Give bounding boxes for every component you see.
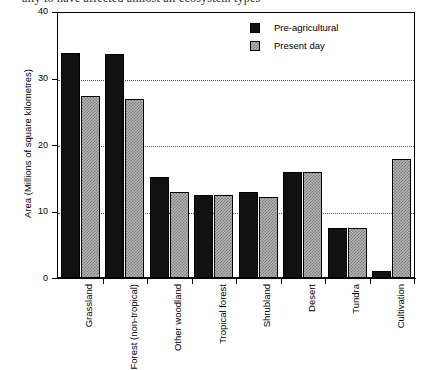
bar-other-woodland-pre-agricultural <box>150 177 169 278</box>
bar-tundra-pre-agricultural <box>328 228 347 278</box>
x-axis-label-forest-non-tropical: Forest (non-tropical) <box>129 284 139 370</box>
top-caption: ally to have affected almost all ecosyst… <box>22 0 260 6</box>
bar-grassland-present-day <box>81 96 100 278</box>
bar-tropical-forest-present-day <box>214 195 233 278</box>
bar-forest-non-tropical-pre-agricultural <box>105 54 124 278</box>
y-axis-title: Area (Millions of square kilometres) <box>22 29 33 259</box>
bar-desert-present-day <box>303 172 322 278</box>
y-tick-label-40: 40 <box>20 7 48 16</box>
bars-layer <box>58 13 414 278</box>
bar-other-woodland-present-day <box>170 192 189 278</box>
legend-item-pre-agricultural[interactable]: Pre-agricultural <box>250 22 338 33</box>
legend-label-present-day: Present day <box>274 40 325 51</box>
x-axis-labels: GrasslandForest (non-tropical)Other wood… <box>0 284 423 352</box>
y-tick-label-0: 0 <box>20 274 48 283</box>
x-axis-label-desert: Desert <box>307 284 317 312</box>
bar-grassland-pre-agricultural <box>61 53 80 278</box>
x-axis-label-tundra: Tundra <box>351 284 361 314</box>
legend-item-present-day[interactable]: Present day <box>250 40 338 51</box>
bar-cultivation-present-day <box>392 159 411 278</box>
x-axis-label-grassland: Grassland <box>84 284 94 327</box>
x-axis-label-cultivation: Cultivation <box>396 284 406 328</box>
x-axis-label-tropical-forest: Tropical forest <box>218 284 228 344</box>
legend-swatch-icon-present-day <box>250 41 260 51</box>
legend-label-pre-agricultural: Pre-agricultural <box>274 22 338 33</box>
x-axis-label-shrubland: Shrubland <box>262 284 272 327</box>
bar-shrubland-pre-agricultural <box>239 192 258 278</box>
bar-cultivation-pre-agricultural <box>372 271 391 278</box>
bar-tundra-present-day <box>348 228 367 278</box>
bar-desert-pre-agricultural <box>283 172 302 278</box>
bar-tropical-forest-pre-agricultural <box>194 195 213 278</box>
legend-swatch-icon-pre-agricultural <box>250 23 260 33</box>
bar-shrubland-present-day <box>259 197 278 278</box>
bar-forest-non-tropical-present-day <box>125 99 144 278</box>
legend: Pre-agricultural Present day <box>250 22 338 58</box>
x-axis-label-other-woodland: Other woodland <box>173 284 183 351</box>
